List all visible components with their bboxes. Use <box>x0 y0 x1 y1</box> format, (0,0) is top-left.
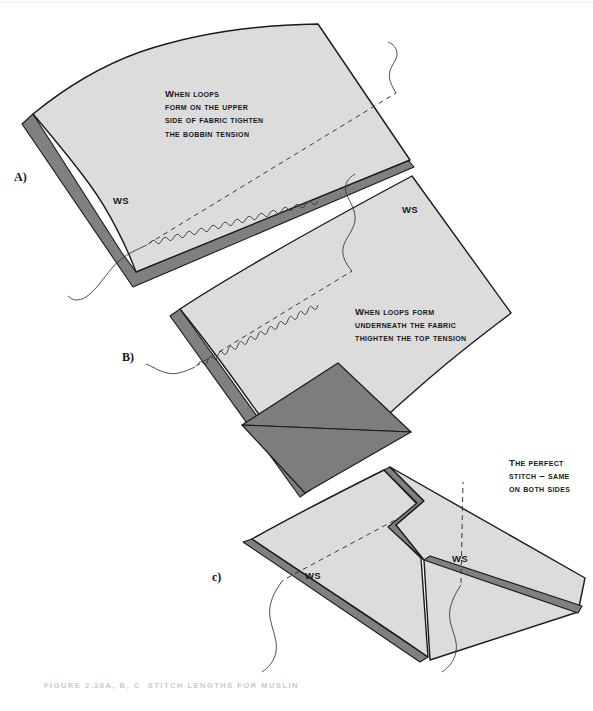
panel-b-ws-label: WS <box>402 204 418 215</box>
panel-letter-a: A) <box>14 170 27 185</box>
panel-letter-b: B) <box>122 350 134 365</box>
panel-c-ws-label-left: WS <box>305 570 321 581</box>
panel-b-callout: When loops form underneath the fabric th… <box>355 305 466 345</box>
panel-c-ws-label-right: WS <box>452 553 468 564</box>
panel-c-fabric <box>243 467 585 672</box>
panel-b-loose-thread <box>146 364 195 374</box>
panel-letter-c: c) <box>212 570 221 585</box>
stitch-length-illustration <box>0 0 593 711</box>
figure-page: A) When loops form on the upper side of … <box>0 0 593 711</box>
panel-c-loose-thread-left <box>262 580 283 672</box>
figure-caption: FIGURE 2.26A, B, C STITCH LENGTHS FOR MU… <box>44 681 299 690</box>
panel-a-ws-label: WS <box>113 195 129 206</box>
panel-a-top-thread <box>388 42 397 93</box>
panel-a-callout: When loops form on the upper side of fab… <box>165 87 263 140</box>
panel-c-callout: The perfect stitch – same on both sides <box>509 456 570 496</box>
